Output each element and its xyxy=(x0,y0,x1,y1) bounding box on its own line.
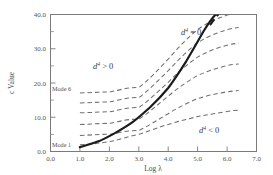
annot-operator: < 0 xyxy=(206,125,219,135)
annotation-d4-negative: d4 < 0 xyxy=(199,125,219,135)
y-tick-label-10: 10.0 xyxy=(34,114,47,122)
y-axis-ticks xyxy=(51,15,56,152)
annotation-d4-zero: d4 = 0 xyxy=(181,27,201,37)
x-tick-label-4: 4.0 xyxy=(164,155,173,163)
y-axis-title: c Value xyxy=(7,71,16,94)
annot-operator: = 0 xyxy=(188,27,201,37)
y-tick-label-20: 20.0 xyxy=(34,80,47,88)
mode-1-label: Mode 1 xyxy=(52,141,71,148)
x-tick-label-6: 6.0 xyxy=(223,155,232,163)
x-tick-label-1: 1.0 xyxy=(76,155,85,163)
x-axis-title: Log λ xyxy=(144,164,162,173)
x-tick-label-5: 5.0 xyxy=(193,155,202,163)
chart-figure: 0.0 10.0 20.0 30.0 40.0 0.0 1.0 2.0 3.0 … xyxy=(0,0,273,175)
y-tick-label-40: 40.0 xyxy=(34,11,47,19)
plot-frame xyxy=(51,15,257,152)
x-tick-label-3: 3.0 xyxy=(134,155,143,163)
annotation-d4-positive: d4 > 0 xyxy=(93,61,113,71)
y-tick-label-30: 30.0 xyxy=(34,45,47,53)
annot-operator: > 0 xyxy=(100,61,113,71)
x-tick-label-2: 2.0 xyxy=(105,155,114,163)
x-tick-label-7: 7.0 xyxy=(252,155,261,163)
mode-6-label: Mode 6 xyxy=(52,85,71,92)
x-tick-label-0: 0.0 xyxy=(46,155,55,163)
y-tick-label-0: 0.0 xyxy=(37,148,46,156)
